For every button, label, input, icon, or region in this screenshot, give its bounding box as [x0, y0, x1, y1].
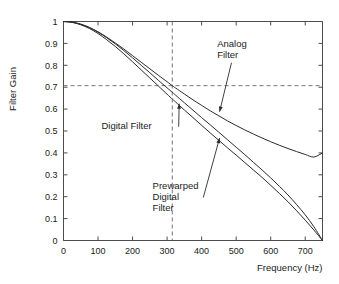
y-tick-label: 0.8 — [45, 61, 58, 71]
y-tick-label: 0.9 — [45, 39, 58, 49]
x-tick-label: 700 — [298, 246, 313, 256]
y-tick-label: 1 — [52, 17, 57, 27]
y-tick-label: 0.2 — [45, 192, 58, 202]
curve-analog-filter — [64, 22, 323, 158]
annotation-label: Digital Filter — [101, 120, 151, 131]
x-tick-label: 100 — [91, 246, 106, 256]
tick-labels-layer: 00.10.20.30.40.50.60.70.80.9101002003004… — [45, 17, 313, 256]
annotation-label: Filter — [217, 49, 238, 60]
series-annotations-layer: AnalogFilterDigital FilterPrewarpedDigit… — [101, 38, 246, 213]
annotation-label: Digital — [153, 191, 179, 202]
x-tick-label: 600 — [263, 246, 278, 256]
y-tick-label: 0.4 — [45, 148, 58, 158]
annotation-label: Analog — [217, 38, 247, 49]
x-tick-label: 300 — [160, 246, 175, 256]
chart-canvas: 00.10.20.30.40.50.60.70.80.9101002003004… — [0, 0, 339, 284]
x-tick-label: 400 — [194, 246, 209, 256]
y-tick-label: 0.3 — [45, 170, 58, 180]
filter-gain-chart-figure: 00.10.20.30.40.50.60.70.80.9101002003004… — [0, 0, 339, 284]
annotation-label: Filter — [153, 202, 174, 213]
annotation-digital: Digital Filter — [101, 104, 181, 132]
annotation-leader-line — [220, 63, 232, 112]
x-tick-label: 0 — [61, 246, 66, 256]
annotation-leader-line — [203, 138, 219, 198]
y-tick-label: 0.5 — [45, 126, 58, 136]
x-tick-label: 200 — [125, 246, 140, 256]
y-tick-label: 0.1 — [45, 214, 58, 224]
y-tick-label: 0 — [52, 236, 57, 246]
annotation-analog: AnalogFilter — [217, 38, 247, 112]
x-tick-label: 500 — [229, 246, 244, 256]
y-axis-title: Filter Gain — [7, 67, 18, 111]
y-tick-label: 0.6 — [45, 104, 58, 114]
annotation-prewarped: PrewarpedDigitalFilter — [153, 138, 221, 213]
x-axis-title: Frequency (Hz) — [257, 262, 322, 273]
y-tick-label: 0.7 — [45, 82, 58, 92]
annotation-label: Prewarped — [153, 180, 199, 191]
